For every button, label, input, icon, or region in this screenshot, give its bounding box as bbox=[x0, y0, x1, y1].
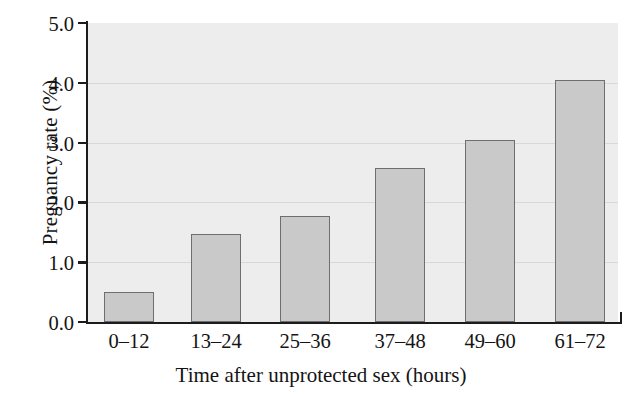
y-tick-mark-5 bbox=[78, 22, 87, 24]
y-tick-label-5: 5.0 bbox=[14, 14, 74, 35]
bars-layer bbox=[88, 23, 618, 322]
bar-61-72[interactable] bbox=[555, 80, 605, 322]
y-tick-label-4: 4.0 bbox=[14, 74, 74, 95]
y-tick-mark-4 bbox=[78, 82, 87, 84]
y-tick-label-2: 2.0 bbox=[14, 193, 74, 214]
bar-49-60[interactable] bbox=[465, 140, 515, 322]
bar-chart-figure: Pregnancy rate (%) 0.0 1.0 2.0 3.0 4.0 5… bbox=[0, 0, 642, 404]
y-axis-title: Pregnancy rate (%) bbox=[38, 3, 63, 323]
y-tick-mark-2 bbox=[78, 201, 87, 203]
bar-0-12[interactable] bbox=[104, 292, 154, 322]
x-axis-title: Time after unprotected sex (hours) bbox=[0, 363, 642, 388]
y-tick-mark-1 bbox=[78, 261, 87, 263]
bar-37-48[interactable] bbox=[375, 168, 425, 322]
y-tick-label-3: 3.0 bbox=[14, 134, 74, 155]
x-tick-label-5: 61–72 bbox=[525, 331, 635, 352]
y-tick-label-1: 1.0 bbox=[14, 253, 74, 274]
plot-area bbox=[88, 23, 618, 322]
x-axis-end-tick bbox=[620, 312, 622, 323]
bar-13-24[interactable] bbox=[191, 234, 241, 322]
x-tick-label-2: 25–36 bbox=[250, 331, 360, 352]
x-axis-line bbox=[86, 322, 622, 324]
y-tick-mark-3 bbox=[78, 142, 87, 144]
bar-25-36[interactable] bbox=[280, 216, 330, 322]
y-tick-mark-0 bbox=[78, 321, 87, 323]
y-axis-line bbox=[86, 21, 88, 324]
y-tick-label-0: 0.0 bbox=[14, 313, 74, 334]
